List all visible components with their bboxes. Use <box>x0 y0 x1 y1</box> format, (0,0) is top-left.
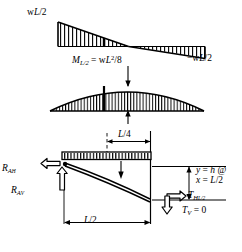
figure-canvas: wL/2 −wL/2 ML/2 = wL2/8 L/4 RAH RAV THL/… <box>0 0 242 252</box>
cable-curve <box>65 163 150 202</box>
moment-max-label: ML/2 = wL2/8 <box>72 55 122 67</box>
horizontal-tension-label: THL/2 <box>188 191 205 202</box>
uniform-load-bar <box>62 152 151 160</box>
horizontal-reaction-label: RAH <box>2 164 16 175</box>
vertical-tension-label: TV = 0 <box>182 206 206 217</box>
shear-right-label: −wL/2 <box>187 54 212 64</box>
half-span-dimension <box>64 220 151 225</box>
load-pointer-arrow <box>118 161 123 179</box>
shear-left-label: wL/2 <box>27 8 47 18</box>
half-span-label: L/2 <box>84 216 97 226</box>
moment-diagram-group <box>50 66 206 124</box>
sag-annotation-line2: x = L/2 <box>196 176 223 186</box>
shear-diagram-group <box>58 20 208 60</box>
vertical-reaction-label: RAV <box>11 186 24 197</box>
vertical-reaction-arrow <box>57 167 67 190</box>
horizontal-reaction-arrow <box>41 159 60 169</box>
quarter-span-label: L/4 <box>118 130 131 140</box>
support-node <box>63 162 67 166</box>
